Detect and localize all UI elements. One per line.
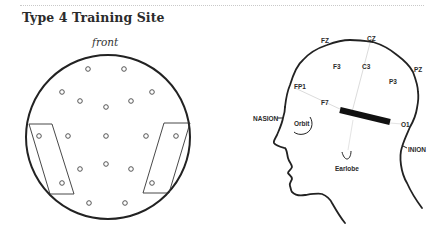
- guide-line-fp1-f7: [295, 88, 342, 110]
- label-nasion: NASION: [253, 115, 279, 122]
- earlobe-shape: [342, 151, 351, 159]
- side-view-head: FZ CZ F3 C3 PZ P3 FP1 F7 O1 NASION INION…: [253, 35, 426, 223]
- label-pz: PZ: [414, 66, 422, 73]
- electrode-sites: [37, 67, 179, 206]
- label-cz: CZ: [367, 35, 376, 42]
- label-orbit: Orbit: [294, 120, 310, 127]
- electrode-site: [129, 167, 134, 172]
- left-pad: [29, 124, 74, 194]
- electrode-site: [60, 90, 65, 95]
- electrode-site: [78, 167, 83, 172]
- label-earlobe: Earlobe: [335, 165, 359, 172]
- electrode-site: [104, 162, 109, 167]
- electrode-site: [78, 99, 83, 104]
- electrode-site: [104, 105, 109, 110]
- electrode-site: [150, 90, 155, 95]
- electrode-site: [150, 181, 155, 186]
- top-view-head: [26, 55, 190, 219]
- label-p3: P3: [389, 78, 397, 85]
- electrode-site: [129, 99, 134, 104]
- label-c3: C3: [362, 63, 371, 70]
- diagram-canvas: FZ CZ F3 C3 PZ P3 FP1 F7 O1 NASION INION…: [0, 0, 448, 237]
- guide-line-to-earlobe: [348, 120, 353, 150]
- electrode-site: [37, 134, 42, 139]
- electrode-site: [87, 201, 92, 206]
- electrode-site: [144, 134, 149, 139]
- electrode-bar: [340, 110, 390, 122]
- electrode-site: [123, 201, 128, 206]
- electrode-site: [174, 134, 179, 139]
- label-fp1: FP1: [294, 83, 306, 90]
- electrode-site: [86, 67, 91, 72]
- label-fz: FZ: [321, 37, 329, 44]
- electrode-site: [66, 134, 71, 139]
- label-f3: F3: [333, 63, 341, 70]
- electrode-site: [122, 67, 127, 72]
- electrode-site: [104, 134, 109, 139]
- inion-tick: [403, 146, 407, 148]
- electrode-site: [60, 181, 65, 186]
- label-o1: O1: [401, 121, 410, 128]
- label-f7: F7: [321, 99, 329, 106]
- label-inion: INION: [408, 146, 426, 153]
- guide-line-cz-c3: [352, 43, 370, 112]
